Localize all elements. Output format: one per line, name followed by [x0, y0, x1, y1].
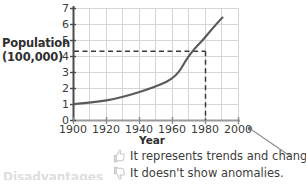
notes-list: It represents trends and changes. It doe… [112, 148, 306, 182]
population-line-chart: Population (100,000) 7 6 5 4 3 2 1 0 190… [0, 0, 306, 184]
note-item-positive: It represents trends and changes. [112, 148, 306, 165]
footer-cut-text: Disadvantages [3, 171, 103, 180]
thumbs-down-icon [112, 165, 127, 181]
thumbs-up-icon [112, 148, 127, 164]
population-line-series [74, 18, 223, 104]
note-text-negative: It doesn't show anomalies. [130, 165, 284, 181]
note-item-negative: It doesn't show anomalies. [112, 165, 306, 182]
note-text-positive: It represents trends and changes. [130, 148, 306, 164]
